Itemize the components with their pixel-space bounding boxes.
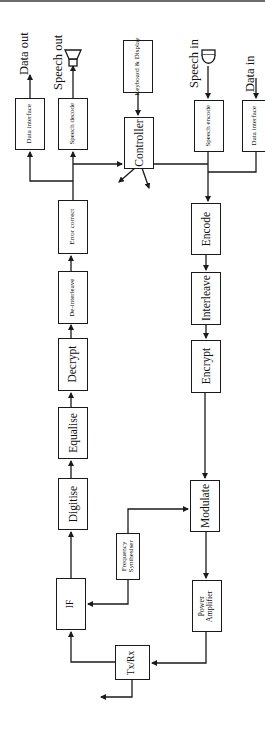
- encode-block: Encode: [191, 203, 221, 255]
- power-amp-line2: Amplifier: [207, 590, 215, 622]
- speech-out-label: Speech out: [51, 35, 66, 90]
- microphone-icon: [202, 50, 215, 63]
- modulate-block: Modulate: [190, 480, 220, 532]
- equalise-block: Equalise: [58, 407, 88, 459]
- speaker-icon: [65, 50, 81, 66]
- data-out-label: Data out: [17, 32, 32, 75]
- speech-encode-block: Speech encode: [194, 100, 224, 152]
- decrypt-block: Decrypt: [58, 338, 88, 391]
- data-interface-in-block: Data interface: [242, 100, 265, 152]
- controller-block: Controller: [124, 117, 154, 169]
- txrx-block: Tx/Rx: [115, 645, 150, 680]
- encrypt-block: Encrypt: [191, 340, 221, 393]
- interleave-block: Interleave: [191, 272, 221, 325]
- deinterleave-block: De-interleave: [58, 271, 88, 324]
- speech-decode-block: Speech decode: [58, 98, 88, 150]
- speech-in-label: Speech in: [187, 39, 202, 88]
- power-amplifier-block: PowerAmplifier: [192, 580, 222, 632]
- freq-synth-line2: Synthesiser: [128, 540, 135, 572]
- error-correct-block: Error correct: [58, 200, 88, 254]
- data-in-label: Data in: [243, 56, 258, 92]
- digitise-block: Digitise: [58, 478, 88, 530]
- if-block: IF: [56, 578, 86, 630]
- data-interface-out-block: Data interface: [15, 98, 45, 150]
- frequency-synthesiser-block: FrequencySynthesiser: [116, 533, 140, 580]
- keyboard-display-block: Keyboard & Display: [123, 40, 153, 93]
